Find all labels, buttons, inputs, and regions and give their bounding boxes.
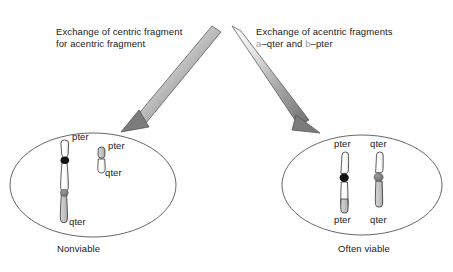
centromere-b-gray (374, 173, 383, 181)
outcome-label-often-viable: Often viable (338, 243, 390, 254)
centromere-a-black (340, 174, 349, 182)
diagram-graphics (0, 0, 453, 272)
large-derivative-chromosome (60, 140, 69, 223)
centromere-primary-black (61, 157, 70, 165)
often-viable-cell (282, 135, 442, 235)
nonviable-cell (10, 133, 176, 237)
label-right-b-qter-bottom: qter (370, 214, 387, 225)
label-right-b-qter-top: qter (370, 138, 387, 149)
outcome-label-nonviable: Nonviable (57, 243, 100, 254)
label-left-large-qter: qter (69, 216, 86, 227)
figure-root: Exchange of centric fragment for acentri… (0, 0, 453, 272)
label-left-small-pter: pter (108, 140, 125, 151)
centromere-secondary-gray (60, 189, 68, 196)
label-right-a-pter-bottom: pter (334, 214, 351, 225)
chromosome-b-derivative (374, 152, 383, 207)
label-right-a-pter-top: pter (334, 138, 351, 149)
chromosome-a-derivative (340, 152, 349, 213)
label-left-small-qter: qter (105, 167, 122, 178)
label-left-large-pter: pter (72, 131, 89, 142)
arrow-to-viable-cell (232, 26, 320, 133)
arrow-to-nonviable-cell (121, 26, 221, 132)
